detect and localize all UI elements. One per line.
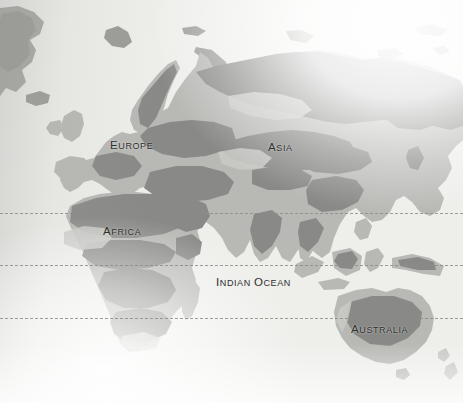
graticule-tropic-of-cancer xyxy=(0,213,463,214)
map-label-australia-body: USTRALIA xyxy=(359,325,408,335)
map-label-asia: ASIA xyxy=(268,138,293,154)
map-label-africa: AFRICA xyxy=(103,222,141,238)
map-figure: EUROPE ASIA AFRICA INDIAN OCEAN AUSTRALI… xyxy=(0,0,463,403)
map-label-asia-body: SIA xyxy=(276,143,292,153)
graticule-tropic-of-capricorn xyxy=(0,318,463,319)
map-label-ocean-body: CEAN xyxy=(263,278,290,288)
paper-bottom-fade xyxy=(0,343,463,403)
map-label-indian-ocean: INDIAN OCEAN xyxy=(216,273,291,289)
map-label-africa-body: FRICA xyxy=(111,227,141,237)
graticule-equator xyxy=(0,265,463,266)
map-label-europe: EUROPE xyxy=(110,136,153,152)
map-label-australia: AUSTRALIA xyxy=(351,320,408,336)
map-label-europe-body: UROPE xyxy=(118,141,153,151)
map-label-indian-ocean-body: NDIAN xyxy=(220,278,254,288)
